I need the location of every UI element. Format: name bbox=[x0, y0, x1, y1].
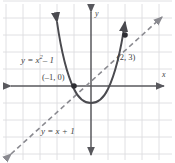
point-label-2-3: (2, 3) bbox=[117, 53, 135, 62]
point-label-minus1-0: (–1, 0) bbox=[42, 73, 65, 82]
coordinate-plane-svg bbox=[0, 0, 175, 163]
point-minus1-0 bbox=[71, 83, 77, 89]
grid-lines bbox=[3, 1, 172, 160]
x-axis-label: x bbox=[162, 71, 166, 79]
graph-figure: y = x2– 1 (–1, 0) (2, 3) y = x + 1 x y bbox=[0, 0, 175, 163]
parabola-eq-base: y = x bbox=[21, 55, 40, 65]
parabola-equation-label: y = x2– 1 bbox=[21, 54, 54, 65]
parabola-eq-tail: – 1 bbox=[43, 55, 54, 65]
axes bbox=[11, 12, 164, 155]
line-equation-label: y = x + 1 bbox=[41, 127, 75, 136]
point-2-3 bbox=[122, 32, 128, 38]
y-axis-label: y bbox=[95, 10, 99, 18]
